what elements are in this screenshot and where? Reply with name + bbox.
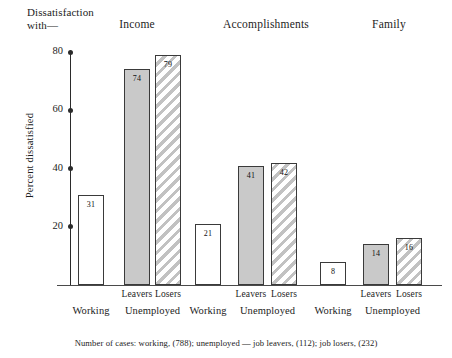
bar-income-working: 31 (78, 195, 104, 285)
bar-value-label: 42 (272, 168, 296, 177)
bar-family-losers: 16 (396, 238, 422, 285)
y-axis-tick-label-80: 80 (38, 45, 63, 56)
bar-value-label: 14 (364, 249, 388, 258)
bar-accomplishments-losers: 42 (271, 163, 297, 285)
bar-accomplishments-working: 21 (195, 224, 221, 285)
bar-value-label: 74 (125, 74, 149, 83)
x-axis-baseline (57, 285, 442, 286)
bar-value-label: 8 (321, 267, 345, 276)
bar-value-label: 41 (239, 171, 263, 180)
x-label-losers-income: Losers (138, 289, 198, 299)
title-line-1: Dissatisfaction (27, 6, 94, 18)
bar-family-working: 8 (320, 262, 346, 285)
y-axis-tick-label-40: 40 (38, 162, 63, 173)
y-axis-title: Percent dissatisfied (24, 96, 35, 216)
bar-chart-figure: Dissatisfaction with— Income Accomplishm… (0, 0, 452, 358)
x-label-losers-accomplishments: Losers (254, 289, 314, 299)
bar-value-label: 21 (196, 229, 220, 238)
x-label-losers-family: Losers (379, 289, 439, 299)
bar-income-leavers: 74 (124, 69, 150, 285)
y-axis-tick-80 (68, 50, 73, 55)
bar-value-label: 16 (397, 243, 421, 252)
group-header-family: Family (309, 18, 452, 30)
bar-income-losers: 79 (155, 55, 181, 285)
bar-accomplishments-leavers: 41 (238, 166, 264, 285)
y-axis-tick-40 (68, 166, 73, 171)
y-axis-tick-60 (68, 108, 73, 113)
bar-value-label: 31 (79, 200, 103, 209)
bar-value-label: 79 (156, 60, 180, 69)
x-label-unemployed-family: Unemployed (348, 305, 438, 316)
bar-family-leavers: 14 (363, 244, 389, 285)
y-axis-tick-label-20: 20 (38, 220, 63, 231)
footnote-number-of-cases: Number of cases: working, (788); unemplo… (0, 338, 452, 348)
y-axis-tick-label-60: 60 (38, 103, 63, 114)
y-axis-tick-20 (68, 224, 73, 229)
